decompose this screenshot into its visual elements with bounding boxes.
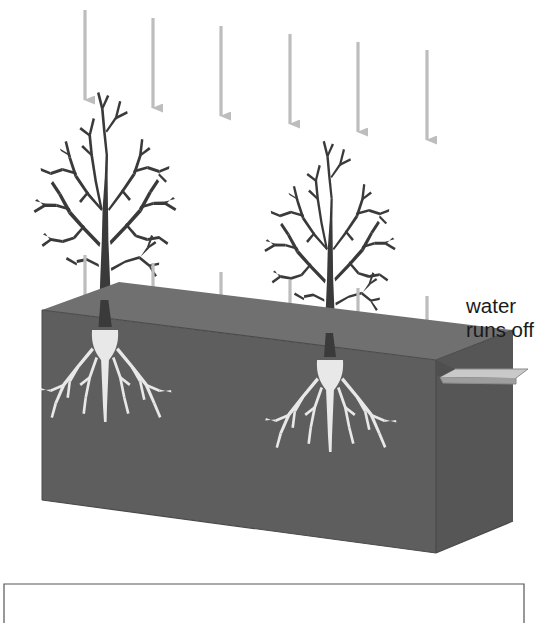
water-runs-off-label-line-2: runs off: [466, 318, 534, 342]
caption-frame: [4, 584, 524, 623]
soil-side-face: [436, 330, 513, 553]
rain-arrows-upper-group: [85, 10, 427, 140]
diagram-canvas: water runs off: [0, 0, 555, 623]
water-runs-off-label: water runs off: [466, 294, 534, 342]
water-runs-off-label-line-1: water: [466, 294, 534, 318]
soil-block: [42, 282, 513, 553]
